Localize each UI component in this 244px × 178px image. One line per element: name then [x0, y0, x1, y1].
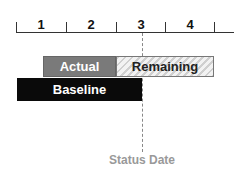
- actual-label: Actual: [60, 59, 100, 74]
- remaining-label: Remaining: [132, 59, 198, 74]
- remaining-bar: Remaining: [116, 56, 214, 77]
- status-date-line: [142, 33, 143, 152]
- actual-bar: Actual: [43, 56, 116, 77]
- baseline-bar: Baseline: [17, 78, 142, 101]
- timeline-axis: [16, 32, 234, 33]
- status-date-label: Status Date: [100, 153, 184, 167]
- period-label-1: 1: [16, 17, 66, 32]
- period-label-4: 4: [165, 17, 215, 32]
- period-label-2: 2: [66, 17, 116, 32]
- baseline-label: Baseline: [53, 82, 106, 97]
- period-label-3: 3: [116, 17, 166, 32]
